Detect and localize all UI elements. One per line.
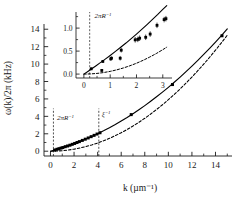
inset-data-point-marker — [138, 37, 141, 40]
inset-x-tick-label: 0 — [82, 81, 86, 90]
series-solid-curve — [50, 29, 227, 151]
inset-data-point-marker — [100, 69, 103, 72]
y-tick-label: 12 — [31, 42, 40, 52]
inset-data-point-marker — [101, 60, 104, 63]
x-tick-label: 14 — [211, 160, 221, 170]
inset-series-dashed-curve — [84, 47, 167, 74]
inset-y-tick-labels: 0.00.51.0 — [63, 24, 73, 79]
main-annotation-labels: 2πR−1ξ−1 — [57, 110, 111, 122]
y-tick-label: 10 — [31, 59, 41, 69]
annotation-label: ξ−1 — [102, 110, 111, 118]
inset-data-point-marker — [120, 49, 123, 52]
data-point-marker — [220, 34, 223, 37]
inset-data-point-marker — [149, 33, 152, 36]
inset-x-tick-label: 2 — [135, 81, 139, 90]
data-point-marker — [84, 138, 87, 141]
series-dashed-curve — [50, 35, 227, 151]
x-tick-label: 2 — [72, 160, 77, 170]
inset-data-point-marker — [90, 67, 93, 70]
inset-y-tick-label: 0.0 — [63, 70, 73, 79]
data-point-marker — [98, 131, 101, 134]
inset-plot-data: 2πR−1 — [84, 6, 167, 78]
data-point-marker — [130, 113, 133, 116]
y-tick-label: 6 — [35, 94, 40, 104]
inset-data-points — [90, 16, 168, 72]
main-plot-data: 2πR−1ξ−1 — [50, 29, 227, 156]
x-tick-label: 8 — [143, 160, 148, 170]
inset-data-point-marker — [144, 36, 147, 39]
y-tick-label: 14 — [31, 24, 41, 34]
main-y-tick-labels: 02468101214 — [31, 24, 41, 156]
data-point-marker — [93, 134, 96, 137]
data-point-marker — [96, 133, 99, 136]
x-tick-label: 12 — [187, 160, 196, 170]
inset-data-point-marker — [156, 24, 159, 27]
annotation-label: 2πR−1 — [57, 114, 74, 122]
data-point-marker — [171, 83, 174, 86]
inset-y-tick-label: 0.5 — [63, 47, 73, 56]
inset-data-point-marker — [119, 57, 122, 60]
x-tick-label: 0 — [48, 160, 53, 170]
main-x-tick-labels: 02468101214 — [48, 160, 220, 170]
data-point-marker — [81, 139, 84, 142]
inset-data-point-marker — [110, 57, 113, 60]
y-tick-label: 4 — [35, 112, 40, 122]
y-tick-label: 8 — [35, 77, 40, 87]
x-tick-label: 6 — [119, 160, 124, 170]
inset-x-tick-label: 1 — [108, 81, 112, 90]
inset-x-tick-label: 3 — [161, 81, 165, 90]
main-series-curves — [50, 29, 227, 151]
y-axis-label: ω(k)/2π (kHz) — [3, 61, 14, 115]
main-data-points — [53, 34, 223, 151]
y-tick-label: 0 — [35, 146, 40, 156]
dispersion-relation-chart: 02468101214 02468101214 2πR−1ξ−1 k (µm⁻¹… — [0, 0, 247, 198]
inset-y-tick-label: 1.0 — [63, 24, 73, 33]
x-tick-label: 10 — [164, 160, 174, 170]
inset-axes: 0123 0.00.51.0 — [63, 12, 172, 90]
figure-container: 02468101214 02468101214 2πR−1ξ−1 k (µm⁻¹… — [0, 0, 247, 198]
main-axis-lines — [44, 24, 232, 156]
data-point-marker — [78, 140, 81, 143]
inset-data-point-marker — [165, 17, 168, 20]
data-point-marker — [90, 135, 93, 138]
inset-x-tick-labels: 0123 — [82, 81, 165, 90]
data-point-marker — [87, 136, 90, 139]
x-axis-label: k (µm⁻¹) — [123, 183, 157, 194]
inset-data-point-marker — [134, 38, 137, 41]
x-tick-label: 4 — [95, 160, 100, 170]
inset-annotation-labels: 2πR−1 — [94, 12, 111, 20]
y-tick-label: 2 — [35, 129, 40, 139]
inset-annotation-label: 2πR−1 — [94, 12, 111, 20]
